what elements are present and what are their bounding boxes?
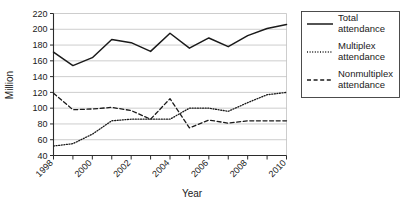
x-tick-label: 2002 (111, 158, 132, 179)
y-tick-label: 140 (32, 72, 47, 82)
series-line-1 (54, 92, 287, 146)
x-tick-label: 2008 (228, 158, 249, 179)
y-tick-label: 120 (32, 88, 47, 98)
legend-label-1-line1: Multiplex (338, 40, 376, 51)
x-tick-label: 2010 (267, 158, 288, 179)
y-tick-label: 180 (32, 40, 47, 50)
legend-label-0-line2: attendance (338, 23, 385, 34)
legend-label-2-line1: Nonmultiplex (338, 68, 393, 79)
y-tick-label: 160 (32, 56, 47, 66)
data-series (54, 25, 287, 146)
x-tick-label: 1998 (34, 158, 55, 179)
y-tick-label: 60 (37, 135, 47, 145)
y-axis-ticks: 406080100120140160180200220 (32, 9, 53, 161)
legend-label-0-line1: Total (338, 12, 358, 23)
legend-label-1-line2: attendance (338, 51, 385, 62)
legend-label-2-line2: attendance (338, 79, 385, 90)
attendance-line-chart: 406080100120140160180200220 199820002002… (0, 0, 405, 209)
series-line-2 (54, 93, 287, 128)
x-tick-label: 2000 (73, 158, 94, 179)
y-tick-label: 100 (32, 103, 47, 113)
y-axis-title: Million (4, 71, 15, 99)
x-tick-label: 2006 (189, 158, 210, 179)
x-tick-label: 2004 (150, 158, 171, 179)
x-axis-title: Year (182, 188, 203, 199)
y-tick-label: 200 (32, 24, 47, 34)
chart-canvas: 406080100120140160180200220 199820002002… (0, 0, 405, 209)
x-axis-ticks: 1998200020022004200620082010 (34, 156, 288, 180)
y-tick-label: 80 (37, 119, 47, 129)
y-tick-label: 220 (32, 9, 47, 19)
